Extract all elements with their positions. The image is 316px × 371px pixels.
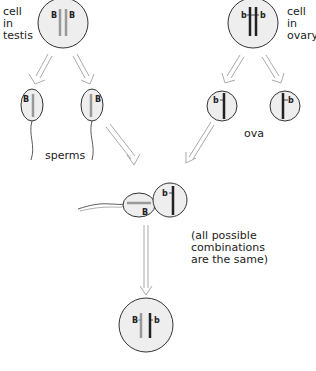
arrow-fertilization-to-zygote: [140, 225, 152, 295]
fertilization: B b: [78, 183, 187, 217]
arrows-testis-to-sperm: [29, 54, 94, 84]
sperm-2: B: [81, 89, 103, 160]
allele-B: B: [23, 95, 29, 104]
testis-cell: B B: [38, 0, 88, 48]
arrows-ovary-to-ova: [222, 55, 284, 83]
allele-B: B: [95, 95, 101, 104]
arrow-sperm-to-fertilization: [106, 124, 140, 165]
allele-b: b: [288, 96, 294, 105]
ovum-2: b: [270, 91, 300, 121]
allele-b: b: [213, 96, 219, 105]
allele-B: B: [142, 208, 148, 217]
sperm-1: B: [21, 89, 43, 160]
ovary-cell: b b: [228, 0, 278, 48]
allele-b: b: [154, 316, 160, 325]
allele-b: b: [162, 189, 168, 198]
allele-b: b: [241, 11, 247, 20]
allele-b: b: [260, 11, 266, 20]
ovum-1: b: [207, 91, 237, 121]
allele-B: B: [51, 11, 57, 20]
allele-B: B: [132, 316, 138, 325]
arrow-ovum-to-fertilization: [186, 122, 214, 163]
inheritance-diagram: B B b b B B: [0, 0, 316, 371]
zygote-cell: B b: [119, 298, 173, 352]
allele-B: B: [69, 11, 75, 20]
